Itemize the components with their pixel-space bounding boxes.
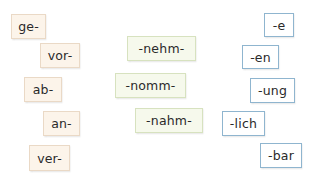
card-label: -en <box>250 50 271 65</box>
stem-card-nehm[interactable]: -nehm- <box>127 36 196 61</box>
card-label: -nehm- <box>139 41 185 56</box>
prefix-card-ge[interactable]: ge- <box>11 14 46 39</box>
card-label: ab- <box>33 82 54 97</box>
card-label: an- <box>51 116 72 131</box>
prefix-card-an[interactable]: an- <box>43 111 80 136</box>
suffix-card-ung[interactable]: -ung <box>250 78 295 103</box>
prefix-card-ab[interactable]: ab- <box>24 77 62 102</box>
suffix-card-bar[interactable]: -bar <box>260 143 302 168</box>
prefix-card-ver[interactable]: ver- <box>29 145 70 171</box>
card-label: -nahm- <box>146 113 192 128</box>
card-label: -bar <box>268 148 294 163</box>
stem-card-nahm[interactable]: -nahm- <box>135 108 203 133</box>
suffix-card-e[interactable]: -e <box>264 13 294 37</box>
stem-card-nomm[interactable]: -nomm- <box>115 73 186 98</box>
suffix-card-en[interactable]: -en <box>242 45 279 69</box>
card-label: vor- <box>48 48 73 63</box>
card-label: -e <box>273 18 286 33</box>
prefix-card-vor[interactable]: vor- <box>40 43 80 68</box>
suffix-card-lich[interactable]: -lich <box>222 111 265 136</box>
card-label: -lich <box>230 116 257 131</box>
card-label: -nomm- <box>125 78 175 93</box>
card-label: -ung <box>258 83 287 98</box>
card-label: ver- <box>37 151 62 166</box>
card-label: ge- <box>18 19 39 34</box>
